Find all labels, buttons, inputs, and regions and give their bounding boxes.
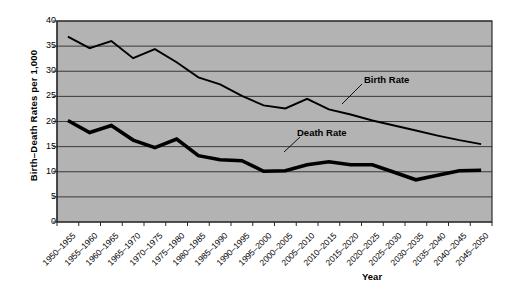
plot-area [0, 0, 521, 293]
x-axis-title: Year [362, 271, 382, 282]
annotation-birth-rate: Birth Rate [364, 74, 409, 85]
chart-figure: Birth–Death Rates per 1,000 051015202530… [0, 0, 521, 293]
annotation-death-rate: Death Rate [297, 127, 347, 138]
